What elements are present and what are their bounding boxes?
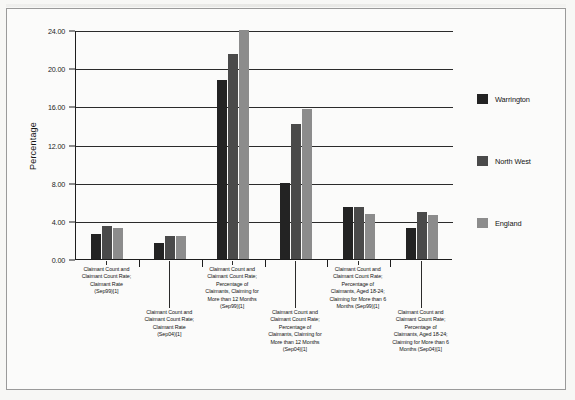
y-axis: 0.004.008.0012.0016.0020.0024.00	[7, 31, 75, 260]
bar-group	[390, 30, 453, 259]
bar-england	[239, 30, 249, 259]
bar-north-west	[102, 226, 112, 259]
y-axis-tick-label: 4.00	[52, 217, 65, 226]
bar-england	[428, 215, 438, 259]
y-axis-tick-label: 20.00	[48, 65, 65, 74]
bar-warrington	[217, 80, 227, 259]
x-axis-category-label: Claimant Count and Claimant Count Rate; …	[247, 309, 343, 353]
bar-england	[113, 228, 123, 259]
label-leader-line	[358, 261, 359, 265]
y-axis-tick-label: 0.00	[52, 256, 65, 265]
label-leader-line	[106, 261, 107, 265]
label-leader-line	[169, 261, 170, 308]
bar-group	[265, 30, 328, 259]
legend-item-north-west[interactable]: North West	[477, 156, 531, 166]
bar-warrington	[280, 183, 290, 259]
legend-label: England	[495, 219, 521, 228]
plot-area	[75, 31, 452, 260]
label-leader-line	[421, 261, 422, 308]
bar-north-west	[354, 207, 364, 259]
x-axis-category-label: Claimant Count and Claimant Count Rate; …	[310, 266, 406, 310]
bar-england	[176, 236, 186, 259]
bar-north-west	[228, 54, 238, 259]
bar-warrington	[406, 228, 416, 259]
chart-frame: Percentage 0.004.008.0012.0016.0020.0024…	[6, 8, 566, 390]
bar-warrington	[154, 243, 164, 259]
legend-label: Warrington	[495, 95, 530, 104]
bar-england	[302, 109, 312, 259]
legend-item-warrington[interactable]: Warrington	[477, 94, 530, 104]
scan-artifact	[6, 4, 566, 7]
x-axis-category-label: Claimant Count and Claimant Count Rate; …	[184, 266, 280, 310]
label-leader-line	[295, 261, 296, 308]
bar-england	[365, 214, 375, 259]
bar-group	[139, 30, 202, 259]
bar-north-west	[291, 124, 301, 259]
chart-page: Percentage 0.004.008.0012.0016.0020.0024…	[0, 0, 575, 400]
y-axis-tick-label: 8.00	[52, 179, 65, 188]
legend-label: North West	[495, 157, 531, 166]
label-leader-line	[232, 261, 233, 265]
bar-group	[76, 30, 139, 259]
bar-warrington	[343, 207, 353, 259]
x-axis-category-label: Claimant Count and Claimant Count Rate; …	[373, 309, 469, 353]
y-axis-tick-label: 16.00	[48, 103, 65, 112]
legend-swatch-icon	[477, 156, 488, 166]
bar-group	[202, 30, 265, 259]
x-axis-category-label: Claimant Count and Claimant Count Rate; …	[121, 309, 217, 339]
legend-item-england[interactable]: England	[477, 218, 521, 228]
y-axis-tick-label: 24.00	[48, 27, 65, 36]
bar-group	[327, 30, 390, 259]
x-axis-category-label: Claimant Count and Claimant Count Rate; …	[58, 266, 154, 296]
legend-swatch-icon	[477, 218, 488, 228]
bar-warrington	[91, 234, 101, 259]
legend-swatch-icon	[477, 94, 488, 104]
bar-north-west	[165, 236, 175, 259]
bar-north-west	[417, 212, 427, 259]
y-axis-tick-label: 12.00	[48, 141, 65, 150]
